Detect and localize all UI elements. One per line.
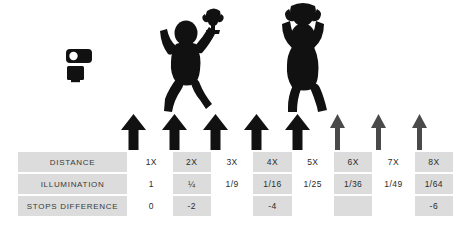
table-row: DISTANCE 1X 2X 3X 4X 5X 6X 7X 8X xyxy=(18,152,455,172)
cell-illumination-7: 1/49 xyxy=(374,174,412,194)
arrow-1 xyxy=(120,114,147,150)
cell-illumination-6: 1/36 xyxy=(334,174,372,194)
row-label-illumination: ILLUMINATION xyxy=(18,174,127,194)
illustration-scene xyxy=(0,0,467,112)
cell-illumination-2: ¼ xyxy=(173,174,211,194)
person-holding-trophy-one-arm-icon xyxy=(150,4,230,112)
cell-distance-6: 6X xyxy=(334,152,372,172)
cell-illumination-8: 1/64 xyxy=(415,174,453,194)
cell-stops-5 xyxy=(294,196,332,216)
arrow-3 xyxy=(202,114,229,150)
arrow-6 xyxy=(328,114,347,150)
cell-distance-3: 3X xyxy=(213,152,251,172)
cell-distance-4: 4X xyxy=(253,152,291,172)
cell-stops-8: -6 xyxy=(415,196,453,216)
cell-stops-3 xyxy=(213,196,251,216)
cell-stops-7 xyxy=(374,196,412,216)
arrow-5 xyxy=(284,114,311,150)
cell-illumination-4: 1/16 xyxy=(253,174,291,194)
table-row: STOPS DIFFERENCE 0 -2 -4 -6 xyxy=(18,196,455,216)
cell-stops-6 xyxy=(334,196,372,216)
person-holding-trophy-overhead-icon xyxy=(265,0,345,112)
row-label-stops-difference: STOPS DIFFERENCE xyxy=(18,196,127,216)
cell-illumination-1: 1 xyxy=(132,174,170,194)
cell-distance-7: 7X xyxy=(374,152,412,172)
cell-stops-2: -2 xyxy=(173,196,211,216)
table-row: ILLUMINATION 1 ¼ 1/9 1/16 1/25 1/36 1/49… xyxy=(18,174,455,194)
arrow-row xyxy=(0,112,467,150)
cell-stops-4: -4 xyxy=(253,196,291,216)
arrow-2 xyxy=(161,114,188,150)
row-label-distance: DISTANCE xyxy=(18,152,127,172)
cell-distance-8: 8X xyxy=(415,152,453,172)
cell-illumination-3: 1/9 xyxy=(213,174,251,194)
flash-unit-icon xyxy=(60,47,96,83)
diagram-canvas: DISTANCE 1X 2X 3X 4X 5X 6X 7X 8X ILLUMIN… xyxy=(0,0,467,228)
cell-distance-5: 5X xyxy=(294,152,332,172)
arrow-7 xyxy=(369,114,388,150)
cell-illumination-5: 1/25 xyxy=(294,174,332,194)
arrow-8 xyxy=(410,114,429,150)
falloff-table: DISTANCE 1X 2X 3X 4X 5X 6X 7X 8X ILLUMIN… xyxy=(18,152,455,218)
cell-stops-1: 0 xyxy=(132,196,170,216)
cell-distance-1: 1X xyxy=(132,152,170,172)
cell-distance-2: 2X xyxy=(173,152,211,172)
arrow-4 xyxy=(243,114,270,150)
